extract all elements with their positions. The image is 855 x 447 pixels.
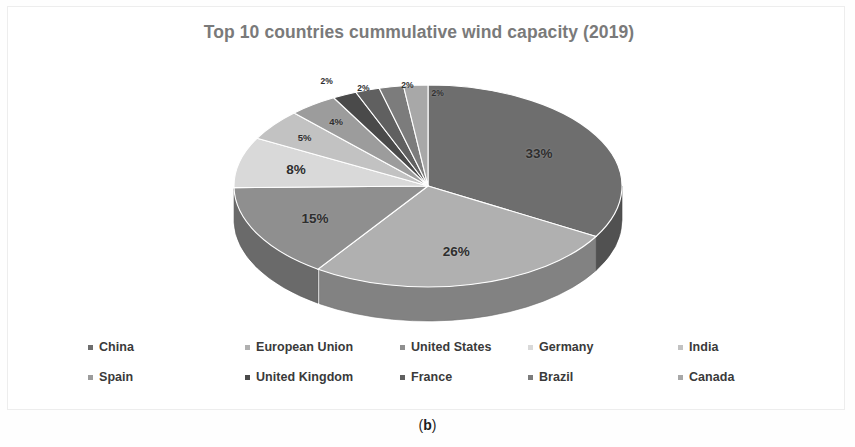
legend-swatch-icon <box>245 345 250 350</box>
legend-row: SpainUnited KingdomFranceBrazilCanada <box>0 370 838 394</box>
legend-swatch-icon <box>88 345 93 350</box>
legend-swatch-icon <box>245 375 250 380</box>
pie-label-canada: 2% <box>432 88 444 98</box>
legend-swatch-icon <box>528 345 533 350</box>
legend-swatch-icon <box>678 345 683 350</box>
legend-swatch-icon <box>528 375 533 380</box>
legend-label: Spain <box>99 370 133 384</box>
legend-label: United States <box>411 340 492 354</box>
legend-item-canada[interactable]: Canada <box>678 370 734 384</box>
legend-label: France <box>411 370 452 384</box>
legend-item-united-states[interactable]: United States <box>400 340 492 354</box>
legend-item-germany[interactable]: Germany <box>528 340 594 354</box>
pie-label-united-states: 15% <box>302 210 329 225</box>
legend-label: Canada <box>689 370 734 384</box>
legend-item-brazil[interactable]: Brazil <box>528 370 573 384</box>
pie-label-spain: 4% <box>329 115 343 126</box>
legend-swatch-icon <box>400 345 405 350</box>
legend-item-china[interactable]: China <box>88 340 134 354</box>
legend-item-spain[interactable]: Spain <box>88 370 133 384</box>
legend-swatch-icon <box>400 375 405 380</box>
figure-caption: (b) <box>0 417 855 433</box>
pie-label-united-kingdom: 2% <box>320 76 332 86</box>
pie-label-brazil: 2% <box>401 80 413 90</box>
pie-label-india: 5% <box>298 132 312 143</box>
pie-label-germany: 8% <box>286 162 306 177</box>
legend-label: Germany <box>539 340 594 354</box>
legend-label: United Kingdom <box>256 370 353 384</box>
legend-label: Brazil <box>539 370 573 384</box>
pie-label-european-union: 26% <box>443 244 470 259</box>
legend-item-united-kingdom[interactable]: United Kingdom <box>245 370 353 384</box>
legend-item-india[interactable]: India <box>678 340 718 354</box>
figure-panel: Top 10 countries cummulative wind capaci… <box>0 0 855 447</box>
legend-row: ChinaEuropean UnionUnited StatesGermanyI… <box>0 340 838 364</box>
pie-label-china: 33% <box>525 145 552 160</box>
caption-letter: b <box>423 417 432 433</box>
legend-item-france[interactable]: France <box>400 370 452 384</box>
legend-label: European Union <box>256 340 353 354</box>
legend-label: China <box>99 340 134 354</box>
pie-chart-svg: China 33%European Union 26%United States… <box>0 0 838 330</box>
legend-swatch-icon <box>678 375 683 380</box>
pie-label-france: 2% <box>357 83 369 93</box>
legend-swatch-icon <box>88 375 93 380</box>
legend-item-european-union[interactable]: European Union <box>245 340 353 354</box>
legend-label: India <box>689 340 718 354</box>
caption-close-paren: ) <box>432 417 437 433</box>
pie-chart: China 33%European Union 26%United States… <box>0 0 838 330</box>
chart-legend: ChinaEuropean UnionUnited StatesGermanyI… <box>0 340 838 402</box>
